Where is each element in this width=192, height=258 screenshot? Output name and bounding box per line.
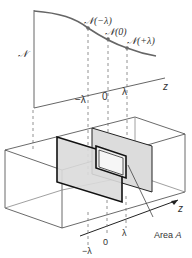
z-axis <box>34 78 165 108</box>
y-axis-label: 𝒩 <box>18 48 31 59</box>
box-tick-minus-lambda: −λ <box>82 246 92 256</box>
tick-minus-lambda: −λ <box>75 94 86 105</box>
tick-zero: 0 <box>102 91 108 102</box>
tick-lambda: λ <box>122 86 127 97</box>
point-label-zero: 𝒩(0) <box>105 26 127 38</box>
point-label-plus-lambda: 𝒩(+λ) <box>127 35 155 47</box>
box-z-label: z <box>177 203 183 214</box>
diagram: 𝒩 z 𝒩(−λ) 𝒩(0) 𝒩(+λ) −λ 0 λ <box>0 0 192 258</box>
planes <box>57 128 152 202</box>
box-bottom-front-edge <box>62 192 185 228</box>
box-inner-line <box>5 190 62 208</box>
x-axis-label: z <box>162 81 168 92</box>
box-bottom-left-edge <box>5 208 62 228</box>
box-top-left-edge <box>5 150 62 170</box>
box-tick-lambda: λ <box>122 228 127 238</box>
area-a-label: Area A <box>154 230 182 240</box>
box-tick-zero: 0 <box>103 237 108 247</box>
